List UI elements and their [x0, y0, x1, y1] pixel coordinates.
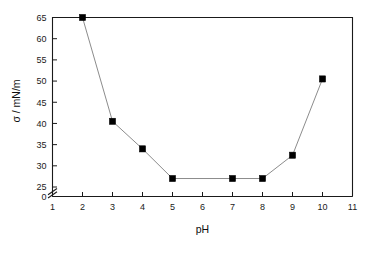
y-tick-label: 25: [36, 182, 46, 192]
x-tick-label: 10: [317, 202, 327, 212]
data-point-marker: [319, 76, 325, 82]
x-tick-label: 5: [170, 202, 175, 212]
y-tick-label: 30: [36, 161, 46, 171]
data-point-marker: [259, 175, 265, 181]
y-tick-label: 55: [36, 55, 46, 65]
y-tick-label: 35: [36, 140, 46, 150]
data-point-marker: [229, 175, 235, 181]
y-tick-label: 40: [36, 119, 46, 129]
x-tick-label: 6: [200, 202, 205, 212]
y-tick-label: 45: [36, 98, 46, 108]
x-tick-label: 9: [290, 202, 295, 212]
data-point-marker: [169, 175, 175, 181]
x-tick-label: 3: [110, 202, 115, 212]
x-axis-title: pH: [196, 223, 209, 235]
plot-frame: [53, 18, 353, 197]
x-tick-label: 4: [140, 202, 145, 212]
x-tick-label: 2: [80, 202, 85, 212]
x-tick-label: 7: [230, 202, 235, 212]
data-point-marker: [139, 146, 145, 152]
x-tick-label: 11: [348, 202, 357, 212]
y-axis-title: σ / mN/m: [10, 79, 22, 122]
y-tick-label: 50: [36, 76, 46, 86]
x-tick-label: 1: [50, 202, 55, 212]
data-point-marker: [109, 118, 115, 124]
line-chart: 02530354045505560651234567891011pHσ / mN…: [0, 0, 377, 258]
chart-figure: 02530354045505560651234567891011pHσ / mN…: [0, 0, 377, 258]
y-tick-label: 65: [36, 13, 46, 23]
data-point-marker: [289, 152, 295, 158]
data-line: [83, 18, 323, 179]
y-tick-label: 60: [36, 34, 46, 44]
x-tick-label: 8: [260, 202, 265, 212]
data-point-marker: [79, 14, 85, 20]
y-tick-label: 0: [41, 192, 46, 202]
